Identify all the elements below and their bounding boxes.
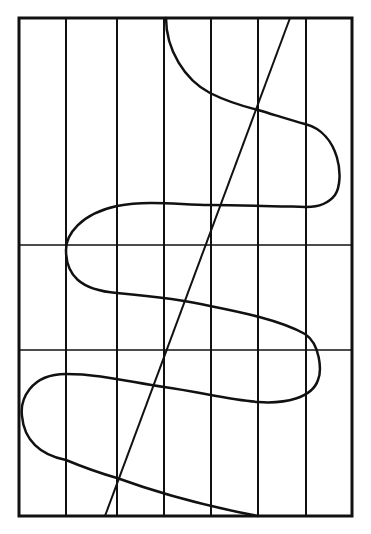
diagonal-line [105,18,290,516]
grid-serpentine-diagram [0,0,371,534]
serpentine-curve [22,18,340,516]
vertical-grid-lines [66,18,306,516]
